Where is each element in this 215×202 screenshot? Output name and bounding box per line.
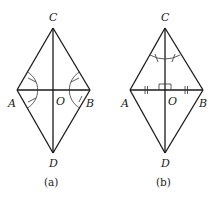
figure-a: C A O B D (a) bbox=[7, 11, 94, 188]
label-c: C bbox=[161, 11, 170, 24]
label-o: O bbox=[56, 95, 65, 108]
label-a: A bbox=[120, 97, 129, 110]
label-d: D bbox=[48, 157, 58, 170]
label-b: B bbox=[198, 97, 207, 110]
edge-ad bbox=[17, 90, 53, 153]
label-b: B bbox=[85, 97, 94, 110]
caption-a: (a) bbox=[44, 176, 58, 188]
caption-b: (b) bbox=[156, 176, 171, 188]
edge-ca bbox=[17, 28, 53, 90]
label-o: O bbox=[168, 95, 177, 108]
label-c: C bbox=[49, 11, 58, 24]
edge-ca bbox=[130, 28, 165, 90]
label-d: D bbox=[160, 157, 170, 170]
geometry-figure: C A O B D (a) C A O B D (b) bbox=[0, 0, 215, 202]
figure-b: C A O B D (b) bbox=[120, 11, 207, 188]
edge-ad bbox=[130, 90, 165, 153]
edge-cb bbox=[165, 28, 203, 90]
label-a: A bbox=[7, 97, 16, 110]
angle-tick-b-lower bbox=[79, 96, 82, 102]
